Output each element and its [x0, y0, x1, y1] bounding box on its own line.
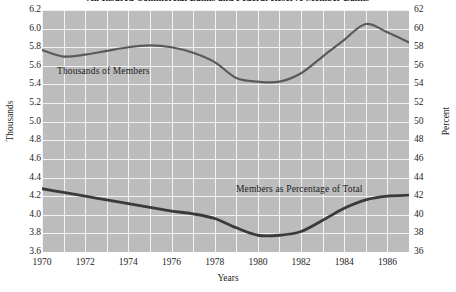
y-axis-left-tick-label: 3.8: [1, 228, 41, 238]
y-axis-right-tick-label: 44: [414, 173, 454, 183]
y-axis-left-tick-label: 6.0: [1, 24, 41, 34]
series-layer: [42, 10, 409, 252]
y-axis-right-tick-label: 58: [414, 42, 454, 52]
chart-title: All Insured Commercial Banks and Federal…: [0, 0, 456, 3]
x-axis-tick-label: 1970: [22, 257, 62, 267]
x-axis-tick-label: 1984: [324, 257, 364, 267]
chart-root: All Insured Commercial Banks and Federal…: [0, 0, 456, 292]
y-axis-right-tick-label: 56: [414, 61, 454, 71]
y-axis-right-tick-label: 38: [414, 228, 454, 238]
x-axis-title: Years: [0, 273, 456, 283]
y-axis-left-tick-label: 5.8: [1, 42, 41, 52]
x-axis-tick-label: 1986: [367, 257, 407, 267]
series-annotation-percent: Members as Percentage of Total: [236, 184, 363, 194]
y-axis-left-tick-label: 5.6: [1, 61, 41, 71]
x-axis-tick-label: 1980: [238, 257, 278, 267]
y-axis-right-tick-label: 62: [414, 5, 454, 15]
series-annotation-thousands: Thousands of Members: [57, 66, 150, 76]
y-axis-right-tick-label: 36: [414, 247, 454, 257]
y-axis-left-tick-label: 4.2: [1, 191, 41, 201]
series-line-percent: [42, 189, 409, 236]
x-axis-tick-label: 1974: [108, 257, 148, 267]
y-axis-right-title: Percent: [441, 86, 451, 156]
y-axis-right-tick-label: 60: [414, 24, 454, 34]
x-axis-tick-label: 1982: [281, 257, 321, 267]
y-axis-left-tick-label: 3.6: [1, 247, 41, 257]
y-axis-left-tick-label: 4.4: [1, 173, 41, 183]
y-axis-left-tick-label: 4.0: [1, 210, 41, 220]
y-axis-right-tick-label: 40: [414, 210, 454, 220]
y-axis-left-tick-label: 6.2: [1, 5, 41, 15]
x-axis-tick-label: 1976: [152, 257, 192, 267]
y-axis-left-title: Thousands: [5, 86, 15, 156]
y-axis-right-tick-label: 42: [414, 191, 454, 201]
x-axis-tick-label: 1972: [65, 257, 105, 267]
x-axis-tick-label: 1978: [195, 257, 235, 267]
plot-area: [42, 10, 409, 252]
